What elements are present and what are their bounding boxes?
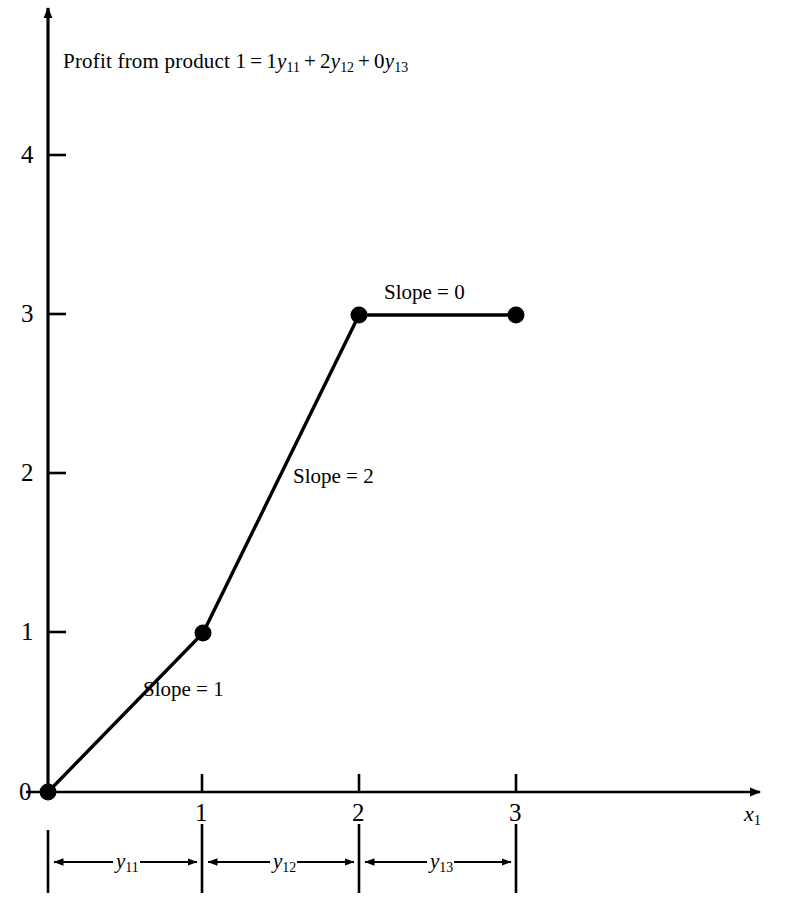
annotation-slope-1: Slope = 1 [143,679,224,700]
data-point-3 [508,307,525,324]
bracket-label-y12: y12 [273,851,296,875]
title-sub-3: 13 [394,60,408,75]
data-point-2 [351,307,368,324]
title-plus-1: + [300,49,320,73]
bracket-y11-sub: 11 [125,860,138,875]
chart-title: Profit from product 1=1y11+2y12+0y13 [63,51,408,75]
title-sub-2: 12 [340,60,354,75]
x-axis-label-sub: 1 [754,812,761,828]
x-axis-label-var: x [744,801,754,826]
chart-canvas [0,0,790,904]
title-lead: Profit from product 1 [63,49,246,73]
x-tick-label-2: 2 [352,800,365,825]
title-coef-2: 2 [320,49,331,73]
title-var-3: y [385,49,395,73]
profit-curve [40,307,525,801]
y-axis [48,8,66,792]
profit-function-figure: Profit from product 1=1y11+2y12+0y13 4 3… [0,0,790,904]
y-tick-label-3: 3 [21,301,34,326]
bracket-y12-var: y [273,849,282,873]
origin-label: 0 [19,779,32,804]
title-plus-2: + [354,49,374,73]
data-point-0 [40,784,57,801]
bracket-label-y11: y11 [116,851,139,875]
x-axis [26,774,760,792]
bracket-y13-sub: 13 [439,860,453,875]
x-axis-label: x1 [744,803,761,828]
bracket-label-y13: y13 [430,851,453,875]
bracket-y13-var: y [430,849,439,873]
title-var-2: y [331,49,341,73]
title-equals: = [246,49,266,73]
x-tick-label-1: 1 [195,800,208,825]
bracket-y12-sub: 12 [282,860,296,875]
title-coef-3: 0 [374,49,385,73]
annotation-slope-0: Slope = 0 [384,282,465,303]
data-point-1 [195,625,212,642]
title-sub-1: 11 [287,60,300,75]
y-tick-label-2: 2 [21,460,34,485]
title-coef-1: 1 [266,49,277,73]
annotation-slope-2: Slope = 2 [293,466,374,487]
bracket-y11-var: y [116,849,125,873]
y-tick-label-4: 4 [21,142,34,167]
x-tick-label-3: 3 [509,800,522,825]
title-var-1: y [277,49,287,73]
y-tick-label-1: 1 [21,619,34,644]
